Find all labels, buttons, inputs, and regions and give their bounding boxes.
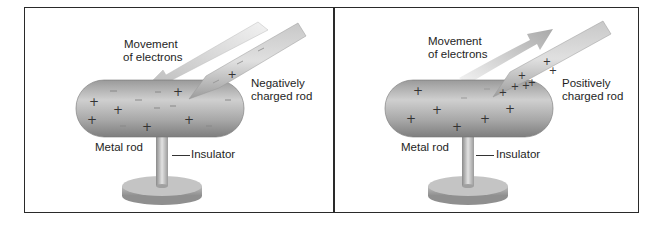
svg-text:+: + — [413, 84, 423, 98]
svg-text:+: + — [89, 95, 99, 109]
svg-text:+: + — [480, 112, 490, 126]
left-insulator-leader — [172, 155, 190, 156]
svg-text:+: + — [452, 120, 462, 134]
svg-text:+: + — [518, 70, 526, 81]
svg-text:+: + — [142, 120, 152, 134]
right-rod-label-1: Positively — [562, 77, 611, 90]
left-panel-art: + + + + + + + — [76, 22, 306, 205]
svg-text:+: + — [184, 113, 194, 127]
svg-text:+: + — [499, 87, 507, 98]
left-metal-rod-label: Metal rod — [95, 141, 143, 154]
diagram-artwork: + + + + + + + — [0, 0, 659, 234]
svg-text:+: + — [87, 113, 97, 127]
left-rod-label-1: Negatively — [251, 77, 305, 90]
svg-text:+: + — [432, 103, 442, 117]
right-rod-label-2: charged rod — [562, 90, 623, 103]
left-movement-label-2: of electrons — [123, 51, 182, 64]
left-rod-label-2: charged rod — [251, 90, 312, 103]
left-insulator-label: Insulator — [191, 148, 235, 161]
right-insulator-leader — [476, 155, 494, 156]
svg-text:+: + — [227, 68, 236, 81]
svg-text:+: + — [406, 112, 416, 126]
right-insulator-label: Insulator — [496, 148, 540, 161]
svg-text:+: + — [528, 77, 536, 88]
svg-text:+: + — [511, 81, 519, 92]
svg-text:+: + — [113, 103, 123, 117]
svg-text:+: + — [505, 102, 515, 116]
right-movement-label-1: Movement — [428, 35, 482, 48]
left-movement-label-1: Movement — [124, 38, 178, 51]
svg-text:+: + — [549, 65, 557, 76]
right-panel-art: + + + + + + + + + + + + + — [385, 21, 611, 205]
right-metal-rod-label: Metal rod — [401, 141, 449, 154]
right-movement-label-2: of electrons — [428, 48, 487, 61]
svg-text:+: + — [173, 85, 183, 99]
